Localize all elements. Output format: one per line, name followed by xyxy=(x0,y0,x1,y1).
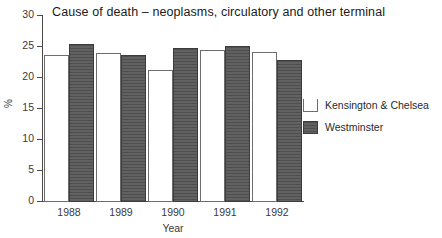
y-axis-line xyxy=(42,15,43,201)
y-tick-label: 5 xyxy=(6,164,34,175)
x-tick-label: 1992 xyxy=(247,206,307,218)
legend-item-westminster: Westminster xyxy=(303,120,442,142)
x-axis-title: Year xyxy=(43,222,303,234)
legend: Kensington & ChelseaWestminster xyxy=(303,98,442,142)
bar-1988-kensington-chelsea xyxy=(44,55,69,202)
bar-1992-kensington-chelsea xyxy=(252,52,277,202)
bar-1990-westminster xyxy=(173,48,198,202)
y-tick-mark xyxy=(37,201,42,202)
x-tick-label: 1989 xyxy=(91,206,151,218)
x-tick-label: 1988 xyxy=(39,206,99,218)
bar-1989-westminster xyxy=(121,55,146,202)
bar-chart-figure: Cause of death – neoplasms, circulatory … xyxy=(0,0,442,238)
x-tick-label: 1990 xyxy=(143,206,203,218)
bar-1992-westminster xyxy=(277,60,302,202)
y-tick-mark xyxy=(37,15,42,16)
legend-swatch xyxy=(303,99,318,112)
y-tick-mark xyxy=(37,77,42,78)
y-tick-label: 15 xyxy=(6,102,34,113)
legend-label: Kensington & Chelsea xyxy=(325,99,429,111)
y-tick-label: 25 xyxy=(6,40,34,51)
y-tick-mark xyxy=(37,170,42,171)
bar-1989-kensington-chelsea xyxy=(96,53,121,202)
legend-label: Westminster xyxy=(325,121,383,133)
bar-1991-kensington-chelsea xyxy=(200,50,225,202)
bar-1988-westminster xyxy=(69,44,94,202)
y-tick-label: 30 xyxy=(6,9,34,20)
bar-1991-westminster xyxy=(225,46,250,202)
chart-title: Cause of death – neoplasms, circulatory … xyxy=(52,5,385,19)
legend-item-kensington-chelsea: Kensington & Chelsea xyxy=(303,98,442,120)
bar-1990-kensington-chelsea xyxy=(148,70,173,202)
y-tick-mark xyxy=(37,139,42,140)
y-tick-label: 20 xyxy=(6,71,34,82)
y-tick-label: 10 xyxy=(6,133,34,144)
y-tick-label: 0 xyxy=(6,195,34,206)
x-tick-label: 1991 xyxy=(195,206,255,218)
legend-swatch xyxy=(303,121,318,134)
y-tick-mark xyxy=(37,108,42,109)
y-tick-mark xyxy=(37,46,42,47)
